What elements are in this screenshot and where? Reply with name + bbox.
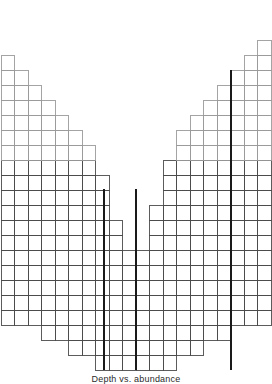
figure-caption: Depth vs. abundance (0, 374, 272, 384)
